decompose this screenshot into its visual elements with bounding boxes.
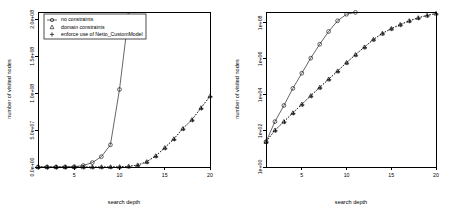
x-tick-label: 5 [73, 172, 76, 178]
x-tick-label: 15 [162, 172, 168, 178]
left-y-axis-title: number of visited nodes [6, 59, 12, 119]
left-y-axis-ticks: 0.0e+005.0e+071.0e+081.5e+082.0e+08 [29, 10, 38, 177]
right-x-axis-ticks: 5101520 [300, 167, 439, 178]
y-tick-label: 1e+06 [257, 51, 263, 66]
left-panel-svg: 0.0e+005.0e+071.0e+081.5e+082.0e+08 5101… [0, 0, 226, 217]
right-x-axis-title: search depth [335, 199, 367, 205]
right-y-axis-ticks: 1e+001e+021e+041e+061e+08 [257, 15, 266, 174]
x-tick-label: 15 [388, 172, 394, 178]
left-panel: 0.0e+005.0e+071.0e+081.5e+082.0e+08 5101… [0, 0, 226, 217]
x-tick-label: 20 [207, 172, 213, 178]
y-tick-label: 1e+08 [257, 15, 263, 30]
legend-item-label: no constraints [61, 16, 94, 22]
figure-two-panel-plot: 0.0e+005.0e+071.0e+081.5e+082.0e+08 5101… [0, 0, 453, 217]
y-tick-label: 5.0e+07 [29, 121, 35, 140]
legend-item-label: domain constraints [61, 24, 105, 30]
x-tick-label: 20 [433, 172, 439, 178]
y-tick-label: 2.0e+08 [29, 10, 35, 29]
left-x-axis-title: search depth [108, 199, 140, 205]
x-tick-label: 10 [344, 172, 350, 178]
y-tick-label: 0.0e+00 [29, 157, 35, 176]
y-tick-label: 1.5e+08 [29, 47, 35, 66]
y-tick-label: 1e+02 [257, 124, 263, 139]
y-tick-label: 1.0e+08 [29, 84, 35, 103]
legend: no constraintsdomain constraintsenforce … [44, 14, 146, 39]
y-tick-label: 1e+00 [257, 160, 263, 175]
right-panel: 1e+001e+021e+041e+061e+08 5101520 search… [226, 0, 452, 217]
legend-item-label: enforce use of Netto_CustomModel [61, 31, 143, 37]
right-panel-svg: 1e+001e+021e+041e+061e+08 5101520 search… [226, 0, 453, 217]
x-tick-label: 10 [117, 172, 123, 178]
right-y-axis-title: number of visited nodes [234, 59, 240, 119]
x-tick-label: 5 [300, 172, 303, 178]
legend-item-plus[interactable]: enforce use of Netto_CustomModel [50, 31, 143, 37]
y-tick-label: 1e+04 [257, 88, 263, 103]
